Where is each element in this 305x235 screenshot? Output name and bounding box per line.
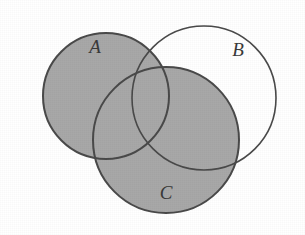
venn-diagram-figure: A B C bbox=[0, 0, 305, 235]
set-label-b: B bbox=[232, 39, 244, 60]
set-label-a: A bbox=[87, 36, 101, 57]
venn-diagram-svg: A B C bbox=[0, 0, 305, 235]
set-label-c: C bbox=[160, 182, 173, 203]
venn-diagram-canvas: A B C bbox=[0, 0, 305, 235]
